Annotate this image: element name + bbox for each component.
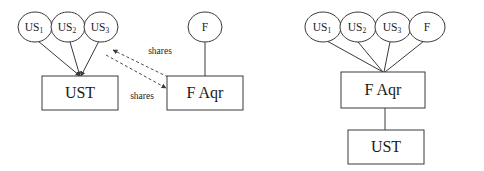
circle-us1-left-base: US: [25, 21, 40, 33]
edge-label-shares-lower: shares: [130, 91, 154, 101]
circle-us1-left-sub: 1: [39, 26, 43, 35]
left-panel: UST F Aqr US1 US2 US3 F shares shares: [18, 12, 243, 110]
circle-f-right-label: F: [424, 21, 430, 33]
circle-us2-right-base: US: [348, 21, 363, 33]
edge-us2-to-ust: [70, 42, 80, 76]
circle-us3-left-base: US: [91, 21, 106, 33]
circle-us2-left-base: US: [58, 21, 73, 33]
edge-us1-to-ust: [38, 41, 80, 76]
circle-us3-right-base: US: [383, 21, 398, 33]
circle-us2-right-sub: 2: [362, 26, 366, 35]
edge-label-shares-upper: shares: [148, 46, 172, 56]
edge-us3-to-ust: [81, 41, 99, 76]
box-faqr-left-label: F Aqr: [187, 84, 225, 102]
circle-us1-right-sub: 1: [327, 26, 331, 35]
box-ust-left-label: UST: [65, 84, 95, 101]
box-ust-right-label: UST: [371, 138, 401, 155]
edge-us3-to-faqr-right: [384, 42, 390, 72]
circle-us2-left-sub: 2: [72, 26, 76, 35]
circle-us3-left-sub: 3: [105, 26, 109, 35]
circle-us3-right-sub: 3: [397, 26, 401, 35]
right-panel: F Aqr UST US1 US2 US3 F: [305, 12, 445, 164]
box-faqr-right-label: F Aqr: [365, 81, 403, 99]
diagram-canvas: UST F Aqr US1 US2 US3 F shares shares: [0, 0, 484, 171]
circle-us1-right-base: US: [313, 21, 328, 33]
edge-f-to-faqr-right: [385, 41, 424, 72]
circle-f-left-label: F: [202, 21, 208, 33]
edge-us1-to-faqr-right: [327, 41, 383, 72]
edge-us2-to-faqr-right: [358, 42, 383, 72]
diagram-root: UST F Aqr US1 US2 US3 F shares shares: [0, 0, 484, 171]
